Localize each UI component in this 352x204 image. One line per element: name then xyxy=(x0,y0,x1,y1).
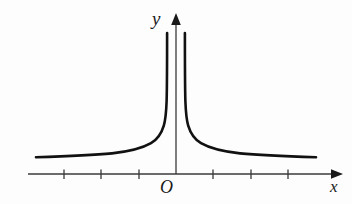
figure-container: y x O xyxy=(0,0,352,204)
x-axis-label: x xyxy=(330,178,338,195)
graph-canvas xyxy=(0,0,352,204)
curve-right-branch xyxy=(185,33,316,157)
y-axis-arrowhead xyxy=(171,13,181,25)
curve-left-branch xyxy=(36,33,167,157)
origin-label: O xyxy=(160,178,173,196)
y-axis-label: y xyxy=(152,9,160,28)
